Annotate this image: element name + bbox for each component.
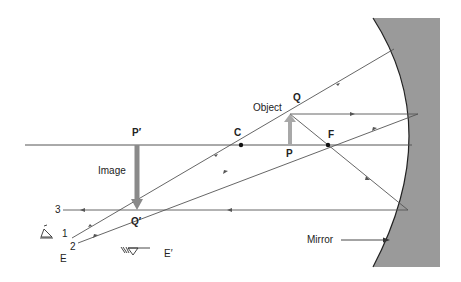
eye-E-prime-icon <box>121 247 150 255</box>
label-ray-3: 3 <box>55 205 61 215</box>
label-P: P <box>286 149 293 159</box>
object-arrow-shaft <box>288 120 292 145</box>
focal-point <box>326 143 330 147</box>
label-P-prime: P′ <box>132 128 141 138</box>
center-of-curvature-point <box>239 143 243 147</box>
label-Q-prime: Q′ <box>131 217 141 227</box>
ray-3-arrow-icon <box>80 208 85 212</box>
label-ray-1: 1 <box>62 229 68 239</box>
image-arrow-head <box>131 199 143 210</box>
label-Q: Q <box>293 93 301 103</box>
label-E-prime: E′ <box>164 249 173 259</box>
image-arrow-shaft <box>135 145 140 200</box>
label-E: E <box>60 254 67 264</box>
eye-E-icon <box>40 225 53 238</box>
ray-3-through-focus <box>290 114 408 210</box>
label-F: F <box>328 130 334 140</box>
ray-2-arrow-icon <box>350 112 355 116</box>
label-C: C <box>234 128 241 138</box>
ray-3-arrow-icon <box>227 208 232 212</box>
object-arrow-head <box>284 114 296 122</box>
ray-diagram <box>0 0 461 282</box>
label-image: Image <box>98 166 126 176</box>
label-mirror: Mirror <box>307 235 333 245</box>
ray-2-arrow-icon <box>223 170 228 174</box>
ray-1-arrow-icon <box>336 83 340 86</box>
label-object: Object <box>253 103 282 113</box>
label-ray-2: 2 <box>70 242 76 252</box>
